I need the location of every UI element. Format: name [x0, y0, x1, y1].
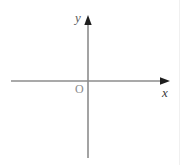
coordinate-axes-figure: y x O [0, 0, 183, 165]
x-axis-label: x [162, 86, 168, 99]
right-edge-rule [179, 0, 180, 165]
axes-drawing [0, 0, 183, 165]
x-axis-arrowhead-icon [160, 77, 170, 84]
y-axis-label: y [75, 11, 81, 24]
y-axis-arrowhead-icon [84, 15, 91, 25]
origin-label: O [75, 83, 84, 95]
